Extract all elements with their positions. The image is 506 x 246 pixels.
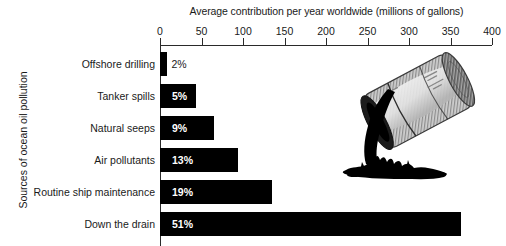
bar-value-label: 51% <box>172 212 193 236</box>
x-axis-tick <box>243 38 244 45</box>
x-axis-tick-label: 300 <box>389 25 429 37</box>
bar <box>160 212 461 236</box>
x-axis-tick-label: 400 <box>472 25 506 37</box>
bar-row: Down the drain51% <box>0 212 493 236</box>
bar-value-label: 9% <box>172 116 187 140</box>
bar-category-label: Offshore drilling <box>82 52 155 76</box>
x-axis-tick <box>285 38 286 45</box>
oil-drum-spilling-illustration <box>338 44 490 192</box>
bar-value-label: 2% <box>171 52 186 76</box>
bar-category-label: Tanker spills <box>97 84 155 108</box>
x-axis-tick-label: 250 <box>348 25 388 37</box>
bar <box>160 52 167 76</box>
x-axis-tick <box>202 38 203 45</box>
x-axis-tick <box>492 38 493 45</box>
bar-category-label: Natural seeps <box>90 116 155 140</box>
bar-category-label: Routine ship maintenance <box>34 180 155 204</box>
x-axis-tick-label: 100 <box>223 25 263 37</box>
bar-value-label: 19% <box>172 180 193 204</box>
x-axis-tick <box>160 38 161 45</box>
x-axis-tick-label: 350 <box>431 25 471 37</box>
x-axis-tick-label: 50 <box>182 25 222 37</box>
x-axis-tick-label: 0 <box>140 25 180 37</box>
bar-value-label: 5% <box>172 84 187 108</box>
bar-category-label: Air pollutants <box>94 148 155 172</box>
chart-title: Average contribution per year worldwide … <box>160 5 493 17</box>
x-axis-tick-label: 200 <box>306 25 346 37</box>
bar-value-label: 13% <box>172 148 193 172</box>
bar-category-label: Down the drain <box>84 212 155 236</box>
x-axis-tick <box>326 38 327 45</box>
x-axis-tick-label: 150 <box>265 25 305 37</box>
